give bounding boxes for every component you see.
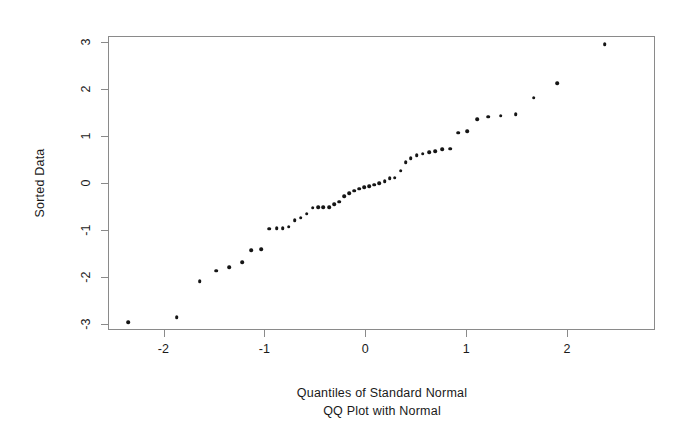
x-axis-title: Quantiles of Standard Normal <box>297 386 467 400</box>
x-axis-tick <box>567 330 568 337</box>
plot-frame <box>108 36 655 330</box>
y-axis-tick-label: -2 <box>79 271 93 283</box>
y-axis-tick-label: 0 <box>79 179 93 186</box>
qq-plot-figure: Sorted Data Quantiles of Standard Normal… <box>0 0 684 444</box>
y-axis-tick <box>101 324 108 325</box>
y-axis-tick-label: -1 <box>79 224 93 236</box>
x-axis-tick-label: 0 <box>362 342 369 356</box>
y-axis-tick-label: 1 <box>79 132 93 139</box>
y-axis-tick <box>101 277 108 278</box>
x-axis-tick-label: -1 <box>259 342 271 356</box>
y-axis-tick-label: 3 <box>79 39 93 46</box>
x-axis-tick <box>164 330 165 337</box>
x-axis-tick-label: -2 <box>158 342 170 356</box>
x-axis-tick <box>466 330 467 337</box>
y-axis-title: Sorted Data <box>33 149 47 218</box>
y-axis-tick <box>101 89 108 90</box>
plot-subtitle: QQ Plot with Normal <box>323 404 441 418</box>
x-axis-tick-label: 2 <box>564 342 571 356</box>
y-axis-tick <box>101 136 108 137</box>
x-axis-tick <box>264 330 265 337</box>
y-axis-tick-label: 2 <box>79 85 93 92</box>
x-axis-tick-label: 1 <box>463 342 470 356</box>
y-axis-tick <box>101 42 108 43</box>
y-axis-tick <box>101 183 108 184</box>
x-axis-tick <box>365 330 366 337</box>
y-axis-tick <box>101 230 108 231</box>
y-axis-tick-label: -3 <box>79 318 93 330</box>
